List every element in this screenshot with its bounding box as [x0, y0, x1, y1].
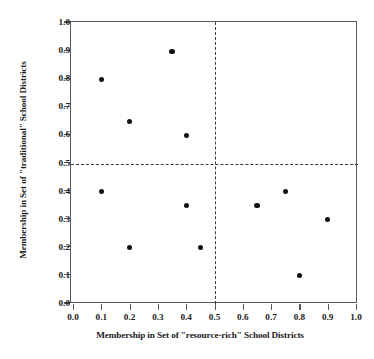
- y-tick-label: 0.3: [44, 214, 70, 224]
- y-tick-label: 0.1: [44, 270, 70, 280]
- plot-area: 0.00.10.20.30.40.50.60.70.80.91.0: [70, 21, 357, 303]
- x-tick-label: 0.4: [173, 312, 199, 322]
- data-point: [283, 189, 288, 194]
- x-tick-mark: [186, 304, 187, 310]
- x-tick-label: 0.7: [258, 312, 284, 322]
- y-tick-label: 0.9: [44, 45, 70, 55]
- y-tick-label: 0.0: [44, 298, 70, 308]
- x-tick-mark: [101, 304, 102, 310]
- x-tick-mark: [215, 304, 216, 310]
- data-point: [99, 189, 104, 194]
- x-tick-label: 0.3: [145, 312, 171, 322]
- data-point: [127, 245, 132, 250]
- y-tick-label: 0.4: [44, 186, 70, 196]
- scatter-plot-figure: Membership in Set of "traditional" Schoo…: [0, 0, 374, 359]
- data-point: [184, 133, 189, 138]
- data-point: [184, 203, 189, 208]
- data-point: [127, 119, 132, 124]
- x-tick-mark: [356, 304, 357, 310]
- x-tick-mark: [243, 304, 244, 310]
- x-tick-mark: [73, 304, 74, 310]
- x-tick-label: 0.6: [230, 312, 256, 322]
- x-tick-label: 0.8: [286, 312, 312, 322]
- y-tick-label: 0.6: [44, 129, 70, 139]
- data-point: [254, 203, 259, 208]
- data-point: [297, 273, 302, 278]
- x-tick-mark: [271, 304, 272, 310]
- x-tick-label: 0.2: [117, 312, 143, 322]
- x-tick-mark: [299, 304, 300, 310]
- data-point: [169, 49, 174, 54]
- y-tick-label: 0.5: [44, 158, 70, 168]
- data-point: [99, 77, 104, 82]
- y-tick-label: 0.7: [44, 101, 70, 111]
- y-tick-label: 1.0: [44, 17, 70, 27]
- x-tick-label: 0.5: [202, 312, 228, 322]
- horizontal-threshold-line: [71, 164, 358, 165]
- y-tick-label: 0.8: [44, 73, 70, 83]
- x-tick-label: 1.0: [343, 312, 369, 322]
- y-tick-label: 0.2: [44, 242, 70, 252]
- x-tick-mark: [328, 304, 329, 310]
- x-tick-label: 0.0: [60, 312, 86, 322]
- data-point: [198, 245, 203, 250]
- x-tick-mark: [130, 304, 131, 310]
- x-tick-label: 0.1: [88, 312, 114, 322]
- x-tick-label: 0.9: [315, 312, 341, 322]
- x-tick-mark: [158, 304, 159, 310]
- data-point: [325, 217, 330, 222]
